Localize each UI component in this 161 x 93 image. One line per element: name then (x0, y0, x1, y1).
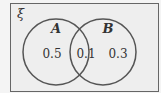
venn-diagram: ξ A B 0.5 0.1 0.3 (0, 0, 161, 93)
universal-set-label: ξ (17, 6, 25, 21)
set-a-only-value: 0.5 (42, 47, 61, 61)
set-a-label: A (49, 21, 61, 36)
set-b-only-value: 0.3 (108, 47, 127, 61)
set-b-label: B (102, 21, 114, 36)
intersection-value: 0.1 (76, 47, 95, 61)
